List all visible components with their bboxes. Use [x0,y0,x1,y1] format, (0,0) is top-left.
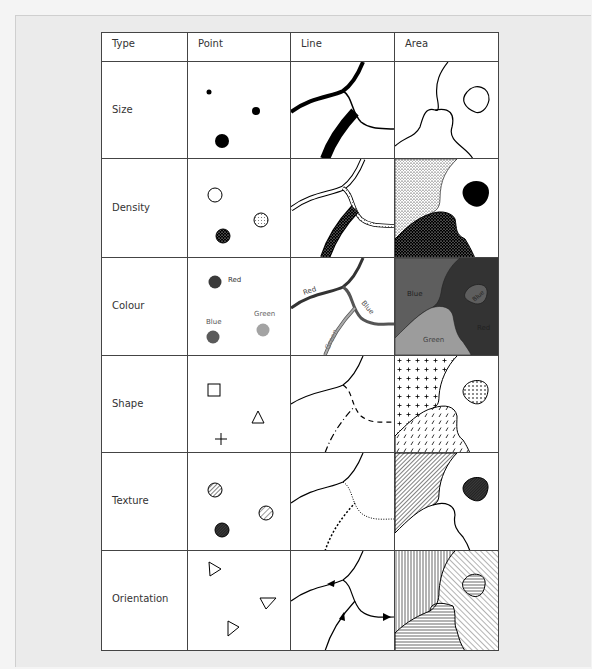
grid-line [101,452,499,453]
texture-point-symbols [188,453,290,551]
area-label-blue: Blue [407,290,423,298]
grid-line [101,32,102,651]
size-point-symbols [188,62,290,159]
line-label-green: Green [324,328,340,351]
grid-line [187,32,188,651]
area-label-red: Red [477,324,490,332]
point-label-green: Green [254,310,275,318]
grid-line [101,158,499,159]
shape-point-symbols [188,356,290,453]
point-label-red: Red [228,276,241,284]
grid-line [101,355,499,356]
grid-line [101,61,499,62]
size-area-symbols [395,62,499,159]
area-label-green: Green [423,336,444,344]
line-label-blue: Blue [359,299,375,316]
texture-area-symbols [395,453,499,551]
grid-line [101,650,499,651]
row-label-colour: Colour [112,300,144,311]
size-line-symbols [291,62,394,159]
header-area: Area [405,38,428,49]
grid-line [101,257,499,258]
point-label-blue: Blue [206,318,222,326]
grid-line [290,32,291,651]
row-label-texture: Texture [112,495,149,506]
density-area-symbols [395,159,499,258]
header-type: Type [112,38,135,49]
shape-area-symbols [395,356,499,453]
density-line-symbols [291,159,394,258]
grid-line [101,32,499,33]
grid-line [101,550,499,551]
row-label-orientation: Orientation [112,593,168,604]
density-point-symbols [188,159,290,258]
orientation-line-symbols [291,551,394,651]
row-label-shape: Shape [112,398,143,409]
visual-variables-table: Type Point Line Area Size Density Colour… [101,32,499,651]
row-label-size: Size [112,104,133,115]
orientation-point-symbols [188,551,290,651]
texture-line-symbols [291,453,394,551]
grid-line [498,32,499,651]
grid-line [394,32,395,651]
orientation-area-symbols [395,551,499,651]
colour-point-symbols: Red Blue Green [188,258,290,355]
header-point: Point [198,38,223,49]
colour-line-symbols: Red Blue Green [291,258,394,355]
row-label-density: Density [112,202,150,213]
shape-line-symbols [291,356,394,453]
colour-area-symbols: Blue Blue Red Green [395,258,499,355]
header-line: Line [301,38,322,49]
